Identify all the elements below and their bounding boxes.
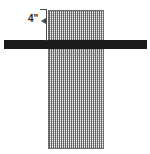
hatched-column bbox=[48, 10, 104, 149]
dimension-label: 4" bbox=[28, 14, 38, 24]
diagram-canvas: 4" bbox=[0, 0, 150, 154]
dimension-arrowhead-icon bbox=[41, 18, 46, 24]
horizontal-beam bbox=[4, 40, 147, 49]
dimension-line bbox=[46, 10, 47, 41]
